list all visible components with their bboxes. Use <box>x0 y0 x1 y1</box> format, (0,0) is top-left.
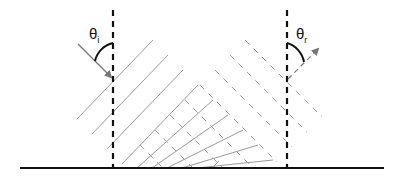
incident-angle-arc <box>95 43 113 61</box>
reflected-ray <box>288 49 318 79</box>
incident-wavefront <box>122 85 198 164</box>
reflection-diagram: θi θr <box>0 0 401 181</box>
reflected-angle-label: θr <box>296 25 307 45</box>
incident-wavefronts <box>77 40 273 168</box>
incident-wavefront <box>77 40 153 119</box>
incident-wavefront <box>197 160 273 168</box>
reflected-wavefront <box>215 70 292 147</box>
incident-angle-label: θi <box>89 25 99 45</box>
reflected-wavefront <box>170 115 223 168</box>
reflected-wavefronts <box>140 40 322 168</box>
incident-wavefront <box>92 55 168 134</box>
reflected-angle-arc <box>287 43 304 62</box>
reflected-wavefront <box>230 55 307 132</box>
incident-wavefront <box>182 145 258 168</box>
incident-wavefront <box>152 115 228 168</box>
reflected-wavefront <box>245 40 322 117</box>
reflected-wavefront <box>185 100 253 168</box>
